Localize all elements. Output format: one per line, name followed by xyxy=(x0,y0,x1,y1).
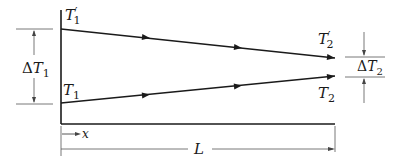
x-label: x xyxy=(82,127,89,141)
delta-t1-label: ΔT1 xyxy=(22,59,50,80)
lower-temperature-line xyxy=(61,73,335,103)
length-label: L xyxy=(193,140,204,158)
t2-prime-label: T′2 xyxy=(318,29,334,51)
t2-label: T2 xyxy=(318,84,335,105)
t1-prime-label: T′1 xyxy=(65,5,81,27)
heat-exchanger-diagram: ΔT1 ΔT2 T′1 T1 T′2 T2 x L xyxy=(0,0,397,162)
t1-label: T1 xyxy=(63,81,80,102)
delta-t2-label: ΔT2 xyxy=(357,58,383,77)
upper-temperature-line xyxy=(61,29,335,61)
x-direction-arrow xyxy=(62,132,81,136)
